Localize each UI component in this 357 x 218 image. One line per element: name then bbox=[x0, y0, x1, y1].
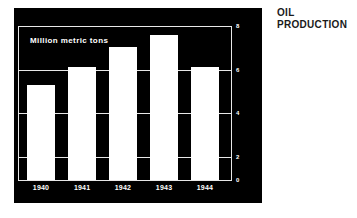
x-axis-label-group: 19401941194219431944 bbox=[18, 184, 232, 202]
bar-1942 bbox=[109, 47, 137, 180]
bar-1944 bbox=[191, 67, 219, 180]
bar-group bbox=[18, 26, 232, 180]
x-axis-label-1941: 1941 bbox=[68, 184, 96, 191]
chart-title-line-1: OIL bbox=[277, 7, 347, 19]
x-axis-label-1940: 1940 bbox=[27, 184, 55, 191]
y-axis-tick-8: 8 bbox=[236, 23, 239, 29]
chart-subtitle: Million metric tons bbox=[30, 36, 108, 45]
x-axis-label-1944: 1944 bbox=[191, 184, 219, 191]
x-axis-label-1942: 1942 bbox=[109, 184, 137, 191]
bar-1941 bbox=[68, 67, 96, 180]
y-axis-tick-0: 0 bbox=[236, 177, 239, 183]
chart-title-line-2: PRODUCTION bbox=[277, 19, 347, 31]
y-axis-tick-4: 4 bbox=[236, 110, 239, 116]
gridline-0 bbox=[18, 180, 232, 181]
chart-panel: 86420 Million metric tons 19401941194219… bbox=[14, 8, 262, 203]
bar-1943 bbox=[150, 35, 178, 180]
bar-1940 bbox=[27, 85, 55, 180]
y-axis-tick-2: 2 bbox=[236, 154, 239, 160]
y-axis-tick-6: 6 bbox=[236, 67, 239, 73]
chart-title: OIL PRODUCTION bbox=[277, 7, 347, 31]
x-axis-label-1943: 1943 bbox=[150, 184, 178, 191]
